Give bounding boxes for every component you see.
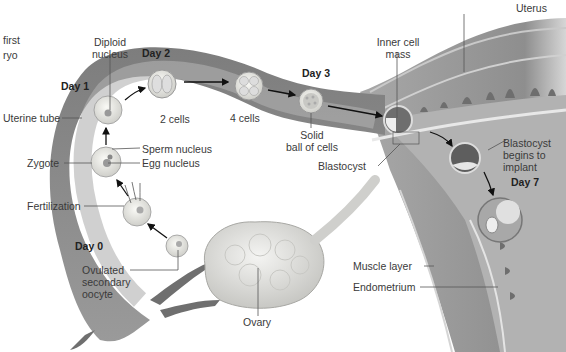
- four-cell-embryo: [235, 72, 263, 100]
- ovulated-oocyte: [166, 235, 188, 257]
- ovary: [204, 180, 375, 308]
- diploid-cell: [94, 96, 122, 124]
- endometrium-label: Endometrium: [353, 281, 415, 293]
- two-cells-label: 2 cells: [160, 113, 190, 125]
- blastocyst-implant-label-line1: Blastocyst: [503, 137, 551, 149]
- caption-fragment: first: [3, 34, 20, 46]
- inner-cell-mass-label: Inner cell mass: [373, 36, 423, 60]
- inner-cell-mass-label-line2: mass: [373, 48, 423, 60]
- ovary-label: Ovary: [243, 316, 271, 328]
- uterus-label: Uterus: [516, 2, 547, 14]
- uterine-tube: [50, 47, 385, 350]
- day-3-label: Day 3: [302, 67, 330, 79]
- implanting-blastocyst: [450, 143, 480, 173]
- blastocyst-label: Blastocyst: [318, 160, 366, 172]
- zygote-label: Zygote: [27, 157, 59, 169]
- egg-nucleus-label: Egg nucleus: [142, 157, 200, 169]
- embryo-development-diagram: first ryo Day 2 Day 1 Day 3 Day 0 Day 7 …: [0, 0, 566, 352]
- ovulated-oocyte-label-line2: secondary: [82, 276, 130, 288]
- day-1-label: Day 1: [61, 80, 89, 92]
- muscle-layer-label: Muscle layer: [353, 260, 412, 272]
- ovulated-oocyte-label: Ovulated secondary oocyte: [82, 264, 130, 300]
- inner-cell-mass-label-line1: Inner cell: [373, 36, 423, 48]
- morula: [299, 89, 323, 113]
- ovulated-oocyte-label-line1: Ovulated: [82, 264, 130, 276]
- solid-ball-label-line1: Solid: [282, 129, 342, 141]
- diploid-nucleus-label: Diploid nucleus: [90, 36, 130, 60]
- sperm-nucleus-label: Sperm nucleus: [142, 143, 212, 155]
- day-0-label: Day 0: [75, 240, 103, 252]
- implanted-embryo: [478, 198, 522, 242]
- blastocyst-implant-label: Blastocyst begins to implant: [503, 137, 551, 173]
- zygote: [91, 147, 121, 177]
- two-cell-embryo: [148, 70, 176, 98]
- day-2-label: Day 2: [142, 47, 170, 59]
- solid-ball-label: Solid ball of cells: [282, 129, 342, 153]
- ovulated-oocyte-label-line3: oocyte: [82, 288, 130, 300]
- uterine-tube-label: Uterine tube: [3, 112, 60, 124]
- solid-ball-label-line2: ball of cells: [282, 141, 342, 153]
- fertilization-label: Fertilization: [27, 200, 81, 212]
- four-cells-label: 4 cells: [230, 112, 260, 124]
- fertilization-cell: [123, 182, 151, 226]
- blastocyst-implant-label-line3: implant: [503, 161, 551, 173]
- diploid-nucleus-label-line1: Diploid: [90, 36, 130, 48]
- caption-fragment: ryo: [3, 49, 18, 61]
- blastocyst-implant-label-line2: begins to: [503, 149, 551, 161]
- diploid-nucleus-label-line2: nucleus: [90, 48, 130, 60]
- day-7-label: Day 7: [511, 176, 539, 188]
